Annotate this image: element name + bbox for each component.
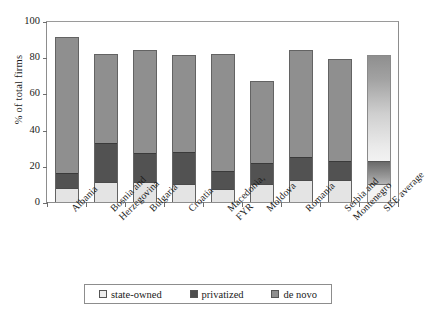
y-tick-label: 0 (35, 196, 40, 207)
bar-segment-privatized[interactable] (290, 157, 312, 180)
swatch-state-owned-icon (99, 290, 107, 298)
legend-item-label: privatized (202, 289, 244, 300)
bar-segment-de-novo[interactable] (290, 51, 312, 157)
legend-item-label: de novo (283, 289, 317, 300)
legend-item-label: state-owned (111, 289, 162, 300)
y-tick-label: 20 (30, 160, 41, 171)
legend-item-privatized[interactable]: privatized (190, 289, 244, 300)
bar-segment-de-novo[interactable] (95, 55, 117, 143)
bar-segment-privatized[interactable] (56, 173, 78, 187)
bar-segment-de-novo[interactable] (368, 56, 390, 160)
bar-segment-de-novo[interactable] (134, 51, 156, 153)
stacked-bar[interactable] (211, 54, 235, 202)
y-axis-title: % of total firms (13, 25, 24, 155)
y-tick-label: 60 (30, 87, 41, 98)
y-tick-label: 100 (24, 15, 40, 26)
bar-segment-de-novo[interactable] (329, 60, 351, 161)
bars-container (47, 22, 398, 202)
bar-group (86, 22, 125, 202)
chart-legend: state-ownedprivatizedde novo (84, 284, 332, 304)
bar-segment-privatized[interactable] (95, 143, 117, 183)
bar-group (203, 22, 242, 202)
stacked-bar[interactable] (55, 37, 79, 202)
bar-segment-de-novo[interactable] (251, 82, 273, 163)
legend-item-state-owned[interactable]: state-owned (99, 289, 162, 300)
swatch-privatized-icon (190, 290, 198, 298)
swatch-de-novo-icon (271, 290, 279, 298)
y-tick-label: 40 (30, 124, 41, 135)
stacked-bar[interactable] (328, 59, 352, 202)
bar-segment-privatized[interactable] (173, 152, 195, 184)
bar-segment-de-novo[interactable] (173, 56, 195, 151)
bar-segment-de-novo[interactable] (56, 38, 78, 173)
bar-group (320, 22, 359, 202)
bar-segment-privatized[interactable] (329, 161, 351, 181)
legend-item-de-novo[interactable]: de novo (271, 289, 317, 300)
stacked-bar[interactable] (289, 50, 313, 202)
plot-area: 020406080100 (46, 21, 399, 203)
bar-segment-privatized[interactable] (212, 171, 234, 189)
bar-segment-de-novo[interactable] (212, 55, 234, 172)
bar-group (281, 22, 320, 202)
stacked-bar[interactable] (94, 54, 118, 202)
bar-group (47, 22, 86, 202)
bar-group (164, 22, 203, 202)
y-tick-label: 80 (30, 51, 41, 62)
stacked-bar[interactable] (172, 55, 196, 202)
x-axis-labels: AlbaniaBosnia andHerzegovinaBulgariaCroa… (46, 206, 399, 282)
